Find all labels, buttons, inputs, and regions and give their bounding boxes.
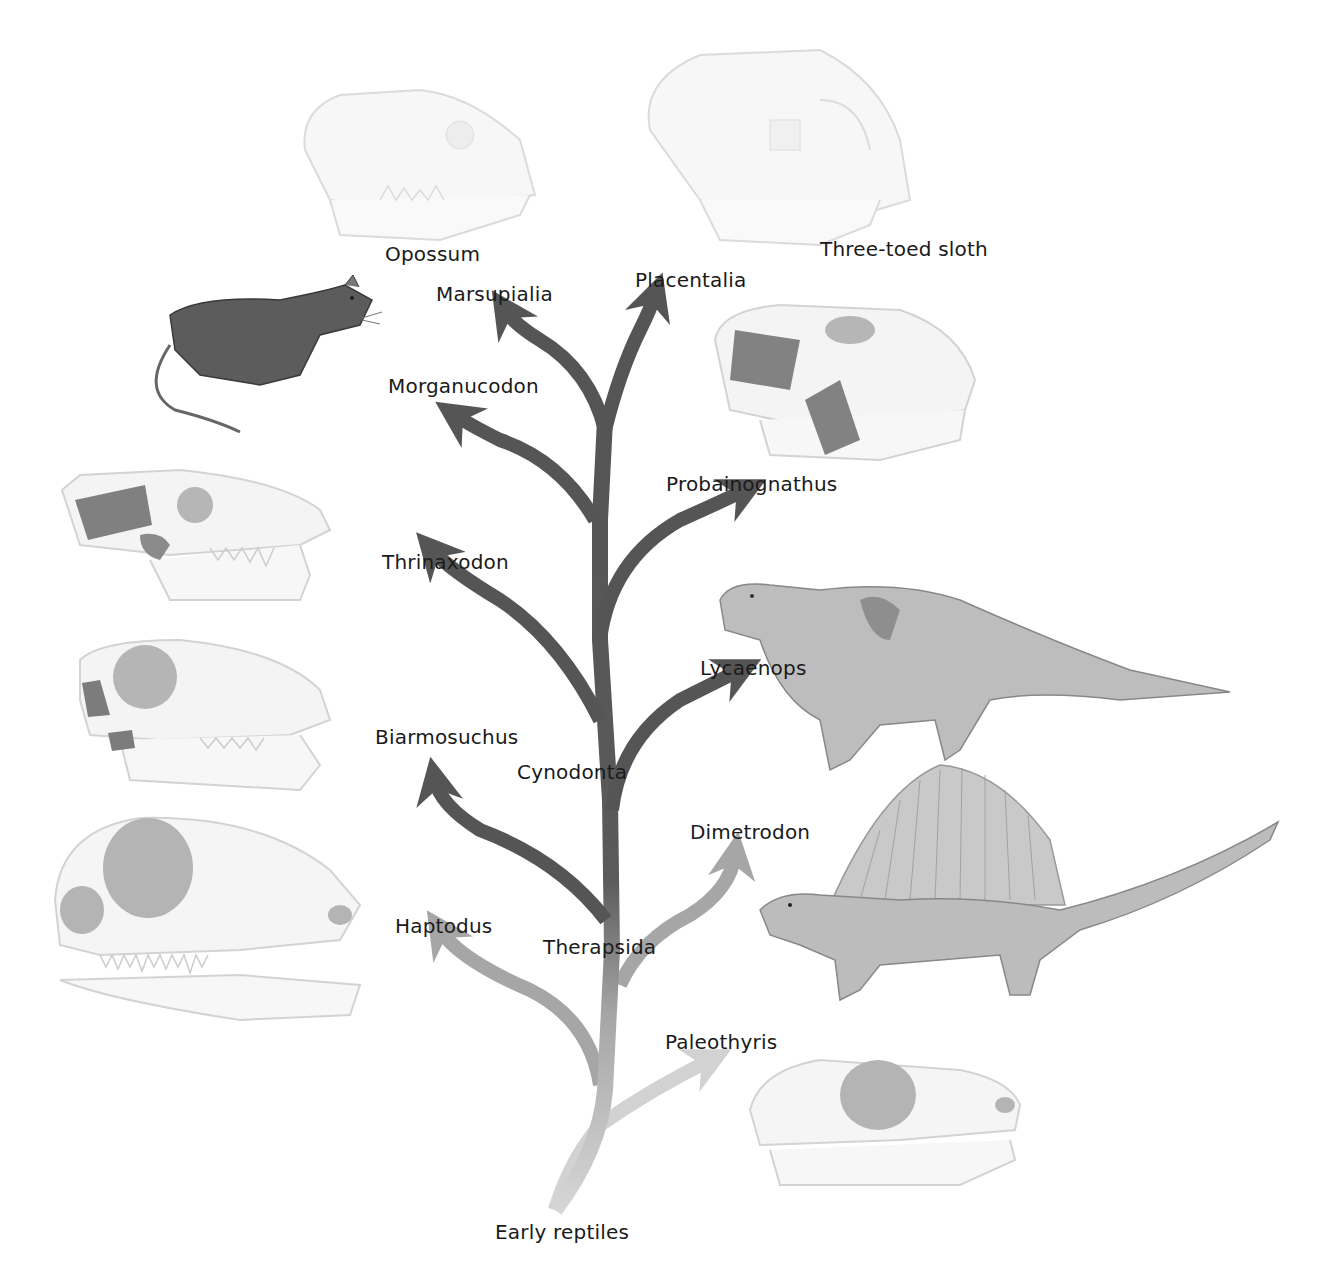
label-probainognathus: Probainognathus	[666, 472, 837, 496]
label-cynodonta: Cynodonta	[517, 760, 627, 784]
label-biarmosuchus: Biarmosuchus	[375, 725, 518, 749]
probainognathus-skull-illustration	[715, 305, 975, 460]
label-opossum: Opossum	[385, 242, 480, 266]
label-dimetrodon: Dimetrodon	[690, 820, 810, 844]
dimetrodon-illustration	[760, 765, 1278, 1000]
opossum-skull-illustration	[304, 90, 535, 240]
label-morganucodon: Morganucodon	[388, 374, 539, 398]
label-haptodus: Haptodus	[395, 914, 492, 938]
haptodus-skull-illustration	[55, 818, 360, 1020]
paleothyris-skull-illustration	[750, 1060, 1020, 1185]
label-therapsida: Therapsida	[543, 935, 656, 959]
biarmosuchus-skull-illustration	[80, 640, 330, 790]
phylogeny-diagram: Opossum Three-toed sloth Marsupialia Pla…	[0, 0, 1335, 1283]
tree-branches	[432, 295, 745, 1210]
sloth-skull-illustration	[649, 50, 910, 245]
morganucodon-illustration	[156, 275, 382, 432]
label-marsupialia: Marsupialia	[436, 282, 553, 306]
label-three-toed-sloth: Three-toed sloth	[820, 237, 988, 261]
label-thrinaxodon: Thrinaxodon	[382, 550, 509, 574]
label-lycaenops: Lycaenops	[700, 656, 807, 680]
label-early-reptiles: Early reptiles	[495, 1220, 629, 1244]
thrinaxodon-skull-illustration	[62, 470, 330, 600]
label-paleothyris: Paleothyris	[665, 1030, 777, 1054]
label-placentalia: Placentalia	[635, 268, 747, 292]
tree-and-illustrations	[0, 0, 1335, 1283]
